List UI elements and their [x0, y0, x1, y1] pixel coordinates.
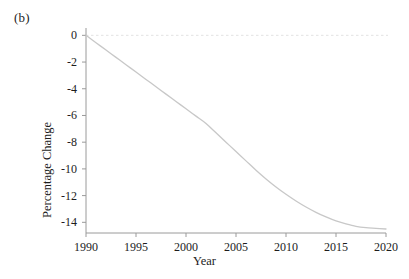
- y-tick-label: -10: [61, 161, 77, 176]
- chart-axes: [86, 28, 386, 233]
- y-tick-label: -6: [67, 108, 77, 123]
- y-tick-label: -2: [67, 55, 77, 70]
- x-tick-label: 2015: [324, 240, 348, 255]
- y-tick-label: -14: [61, 215, 77, 230]
- x-tick-label: 2005: [224, 240, 248, 255]
- x-tick-label: 1995: [124, 240, 148, 255]
- y-tick-label: 0: [71, 28, 77, 43]
- x-tick-label: 2000: [174, 240, 198, 255]
- y-tick-label: -12: [61, 188, 77, 203]
- data-series-line: [86, 35, 386, 229]
- y-tick-label: -4: [67, 81, 77, 96]
- x-tick-label: 2010: [274, 240, 298, 255]
- y-tick-label: -8: [67, 135, 77, 150]
- x-tick-label: 1990: [74, 240, 98, 255]
- x-tick-label: 2020: [374, 240, 398, 255]
- figure-panel-b: (b) Percentage Change Year 0-2-4-6-8-10-…: [0, 0, 409, 279]
- line-chart-plot: [0, 0, 409, 279]
